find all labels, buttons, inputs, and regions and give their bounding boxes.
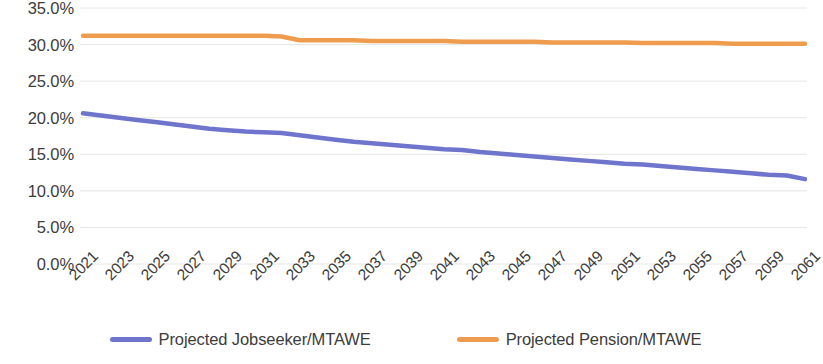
y-tick-label: 0.0% xyxy=(0,256,74,272)
plot-area xyxy=(80,0,807,266)
series-line xyxy=(83,36,805,44)
y-tick-label: 20.0% xyxy=(0,110,74,126)
y-tick-label: 30.0% xyxy=(0,37,74,53)
y-tick-label: 25.0% xyxy=(0,73,74,89)
plot-svg xyxy=(80,0,807,266)
legend-item[interactable]: Projected Jobseeker/MTAWE xyxy=(110,330,371,348)
y-tick-label: 35.0% xyxy=(0,0,74,16)
y-tick-label: 10.0% xyxy=(0,183,74,199)
chart-legend: Projected Jobseeker/MTAWEProjected Pensi… xyxy=(0,330,811,364)
gridlines xyxy=(80,8,807,264)
y-tick-label: 5.0% xyxy=(0,219,74,235)
legend-item[interactable]: Projected Pension/MTAWE xyxy=(457,330,702,348)
legend-label: Projected Pension/MTAWE xyxy=(506,330,702,348)
x-axis: 2021202320252027202920312033203520372039… xyxy=(80,266,807,324)
legend-label: Projected Jobseeker/MTAWE xyxy=(159,330,371,348)
y-tick-label: 15.0% xyxy=(0,146,74,162)
series-lines xyxy=(83,36,805,179)
series-line xyxy=(83,113,805,179)
legend-swatch-icon xyxy=(110,337,152,342)
y-axis: 0.0%5.0%10.0%15.0%20.0%25.0%30.0%35.0% xyxy=(0,0,74,270)
legend-swatch-icon xyxy=(457,337,499,342)
